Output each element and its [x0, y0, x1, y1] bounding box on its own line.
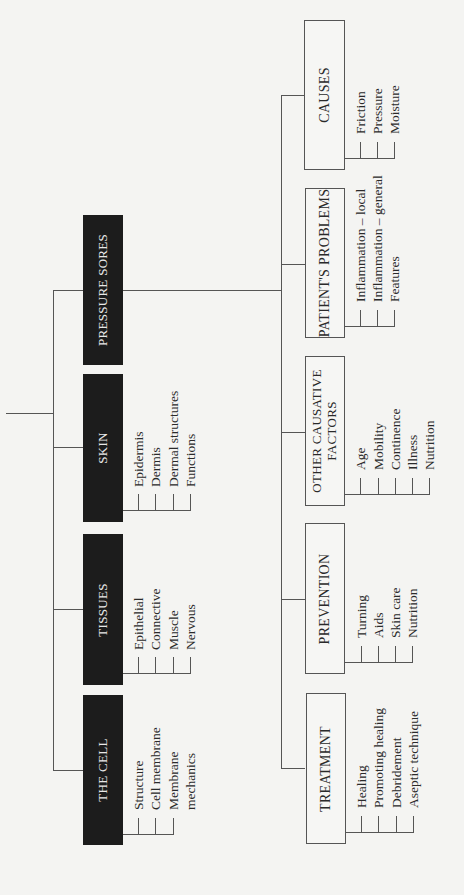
tick: [378, 478, 379, 494]
node-label: OTHER CAUSATIVE FACTORS: [310, 369, 340, 492]
connector-root-to-children: [123, 290, 281, 291]
list-item: Functions: [182, 434, 199, 487]
tick: [378, 816, 379, 832]
tick: [138, 494, 139, 510]
list-item: Illness: [404, 435, 421, 470]
list-item: Membrane: [165, 752, 182, 810]
node-causes: CAUSES: [304, 20, 345, 170]
node-pressure-sores: PRESSURE SORES: [83, 215, 123, 365]
tick: [394, 142, 395, 158]
list-item: Nutrition: [421, 421, 438, 471]
tick: [394, 310, 395, 326]
node-label: THE CELL: [96, 738, 111, 801]
tick: [190, 494, 191, 510]
tick: [190, 657, 191, 673]
list-item: Features: [386, 256, 403, 302]
node-the-cell: THE CELL: [83, 695, 123, 845]
list-item: Debridement: [388, 738, 405, 808]
tick: [155, 657, 156, 673]
list-item: Turning: [353, 595, 370, 638]
connector-causes: [281, 95, 305, 96]
tick: [360, 142, 361, 158]
list-item: Epidermis: [130, 432, 147, 488]
tick: [395, 478, 396, 494]
list-item: mechanics: [182, 753, 199, 810]
bracket-causes: [345, 158, 395, 159]
connector-other-factors: [281, 432, 305, 433]
tick: [361, 646, 362, 662]
node-prevention: PREVENTION: [305, 523, 345, 674]
bracket-other-factors: [345, 494, 430, 495]
list-item: Friction: [352, 91, 369, 134]
tick: [378, 646, 379, 662]
node-label: PATIENT'S PROBLEMS: [317, 189, 333, 338]
tick: [377, 142, 378, 158]
list-item: Nervous: [182, 604, 199, 650]
bracket-prevention: [345, 662, 413, 663]
connector-pressure-sores: [53, 290, 83, 291]
node-label: TREATMENT: [318, 726, 334, 812]
connector-the-cell: [53, 770, 83, 771]
list-item: Cell membrane: [147, 727, 164, 810]
list-item: Muscle: [165, 610, 182, 650]
tick: [412, 478, 413, 494]
list-item: Moisture: [386, 85, 403, 134]
tick: [138, 818, 139, 834]
list-item: Inflammation – local: [352, 189, 369, 302]
list-item: Structure: [130, 761, 147, 811]
root-spine-line: [53, 290, 54, 771]
tick: [360, 310, 361, 326]
connector-prevention: [281, 599, 305, 600]
node-other-causative-factors: OTHER CAUSATIVE FACTORS: [305, 356, 345, 506]
list-item: Age: [352, 448, 369, 471]
tick: [377, 310, 378, 326]
node-treatment: TREATMENT: [306, 693, 346, 844]
root-stub-line: [6, 413, 54, 414]
node-label: PRESSURE SORES: [96, 234, 111, 346]
node-skin: SKIN: [83, 374, 123, 522]
list-item: Nutrition: [404, 589, 421, 639]
tick: [155, 818, 156, 834]
list-item: Aids: [370, 612, 387, 638]
tick: [173, 494, 174, 510]
node-label-line1: OTHER CAUSATIVE: [310, 369, 325, 492]
list-item: Pressure: [369, 88, 386, 134]
list-item: Inflammation – general: [369, 175, 386, 302]
list-item: Epithelial: [130, 598, 147, 650]
tick: [360, 478, 361, 494]
connector-skin: [53, 447, 83, 448]
tick: [138, 657, 139, 673]
tick: [396, 816, 397, 832]
list-item: Continence: [387, 409, 404, 470]
connector-tissues: [53, 609, 83, 610]
bracket-treatment: [346, 832, 414, 833]
list-item: Mobility: [370, 423, 387, 470]
list-item: Healing: [353, 765, 370, 808]
connector-patients-problems: [281, 264, 305, 265]
list-item: Skin care: [387, 587, 404, 638]
tick: [412, 646, 413, 662]
list-item: Connective: [147, 589, 164, 650]
tick: [155, 494, 156, 510]
list-item: Promoting healing: [370, 708, 387, 808]
tick: [395, 646, 396, 662]
node-patients-problems: PATIENT'S PROBLEMS: [305, 188, 345, 338]
node-label-line2: FACTORS: [325, 369, 340, 492]
list-item: Dermal structures: [165, 391, 182, 487]
connector-treatment: [281, 768, 305, 769]
node-label: PREVENTION: [317, 553, 333, 644]
node-label: CAUSES: [316, 67, 332, 122]
node-tissues: TISSUES: [83, 534, 123, 685]
bracket-patients-problems: [345, 326, 395, 327]
bracket-skin: [123, 510, 191, 511]
bracket-the-cell: [123, 834, 174, 835]
node-label: SKIN: [96, 432, 111, 464]
list-item: Dermis: [147, 447, 164, 487]
list-item: Aseptic technique: [405, 711, 422, 808]
node-label: TISSUES: [96, 583, 111, 636]
bracket-tissues: [123, 673, 191, 674]
tick: [361, 816, 362, 832]
tick: [173, 818, 174, 834]
tick: [429, 478, 430, 494]
tick: [173, 657, 174, 673]
